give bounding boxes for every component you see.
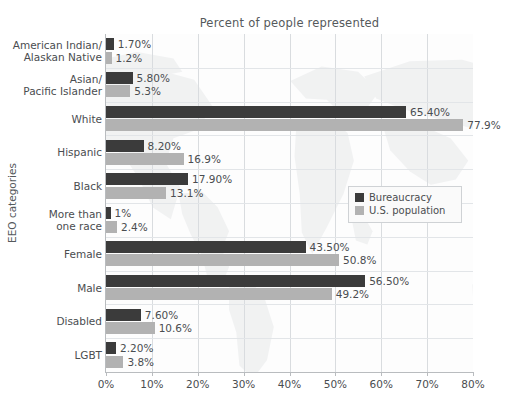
category-separator	[106, 338, 473, 339]
bar-value-label: 13.1%	[170, 187, 203, 199]
x-tick-label: 10%	[140, 378, 163, 390]
bar-bureaucracy	[106, 140, 144, 152]
x-tick-label: 80%	[461, 378, 484, 390]
x-tick-mark	[152, 372, 153, 376]
x-tick-label: 70%	[415, 378, 438, 390]
category-separator	[106, 102, 473, 103]
bar-bureaucracy	[106, 38, 114, 50]
bar-value-label: 65.40%	[410, 106, 450, 118]
x-tick-mark	[335, 372, 336, 376]
category-separator	[106, 68, 473, 69]
category-label: Hispanic	[2, 146, 102, 158]
y-axis-tick-labels: American Indian/ Alaskan NativeAsian/ Pa…	[0, 34, 102, 372]
category-separator	[106, 135, 473, 136]
category-label: American Indian/ Alaskan Native	[2, 39, 102, 63]
x-tick-label: 60%	[370, 378, 393, 390]
bar-value-label: 56.50%	[369, 275, 409, 287]
x-tick-label: 40%	[278, 378, 301, 390]
bar-bureaucracy	[106, 241, 306, 253]
bar-value-label: 16.9%	[188, 153, 221, 165]
bar-value-label: 50.8%	[343, 254, 376, 266]
bar-value-label: 17.90%	[192, 173, 232, 185]
bar-value-label: 43.50%	[310, 241, 350, 253]
x-tick-label: 0%	[98, 378, 115, 390]
bar-us-population	[106, 187, 166, 199]
category-label: Female	[2, 248, 102, 260]
legend-swatch-icon	[355, 206, 364, 215]
bar-value-label: 1.70%	[118, 38, 151, 50]
bar-us-population	[106, 356, 123, 368]
bar-bureaucracy	[106, 207, 111, 219]
legend-item[interactable]: U.S. population	[355, 204, 455, 217]
bar-us-population	[106, 153, 184, 165]
bar-bureaucracy	[106, 309, 141, 321]
bar-value-label: 1.2%	[116, 52, 143, 64]
category-separator	[106, 271, 473, 272]
bar-value-label: 2.4%	[121, 221, 148, 233]
x-tick-label: 30%	[232, 378, 255, 390]
category-label: Asian/ Pacific Islander	[2, 73, 102, 97]
legend-swatch-icon	[355, 193, 364, 202]
category-label: Disabled	[2, 315, 102, 327]
x-tick-label: 50%	[324, 378, 347, 390]
bar-value-label: 3.8%	[127, 356, 154, 368]
category-label: Male	[2, 282, 102, 294]
bar-bureaucracy	[106, 106, 406, 118]
chart-title: Percent of people represented	[106, 16, 473, 30]
x-tick-mark	[381, 372, 382, 376]
category-separator	[106, 304, 473, 305]
bar-us-population	[106, 288, 332, 300]
bar-bureaucracy	[106, 342, 116, 354]
bar-value-label: 49.2%	[336, 288, 369, 300]
bar-us-population	[106, 221, 117, 233]
category-label: Black	[2, 180, 102, 192]
x-tick-label: 20%	[186, 378, 209, 390]
bar-value-label: 1%	[115, 207, 132, 219]
bar-us-population	[106, 119, 463, 131]
x-tick-mark	[244, 372, 245, 376]
bar-value-label: 7.60%	[145, 309, 178, 321]
x-tick-mark	[473, 372, 474, 376]
bar-bureaucracy	[106, 72, 133, 84]
bar-value-label: 2.20%	[120, 342, 153, 354]
bar-value-label: 8.20%	[148, 140, 181, 152]
category-label: More than one race	[2, 208, 102, 232]
x-tick-mark	[198, 372, 199, 376]
x-tick-mark	[290, 372, 291, 376]
category-separator	[106, 169, 473, 170]
category-separator	[106, 237, 473, 238]
bar-value-label: 77.9%	[467, 119, 500, 131]
x-tick-mark	[427, 372, 428, 376]
legend-label: U.S. population	[369, 205, 445, 216]
chart-legend: BureaucracyU.S. population	[348, 186, 462, 223]
x-tick-mark	[106, 372, 107, 376]
bar-bureaucracy	[106, 173, 188, 185]
bar-value-label: 10.6%	[159, 322, 192, 334]
legend-label: Bureaucracy	[369, 192, 432, 203]
bar-us-population	[106, 85, 130, 97]
bar-value-label: 5.80%	[137, 72, 170, 84]
bar-value-label: 5.3%	[134, 85, 161, 97]
category-label: LGBT	[2, 349, 102, 361]
bar-chart: Percent of people represented EEO catego…	[0, 0, 516, 403]
legend-item[interactable]: Bureaucracy	[355, 191, 455, 204]
bar-bureaucracy	[106, 275, 365, 287]
bar-us-population	[106, 254, 339, 266]
bar-us-population	[106, 52, 112, 64]
category-label: White	[2, 113, 102, 125]
bar-us-population	[106, 322, 155, 334]
